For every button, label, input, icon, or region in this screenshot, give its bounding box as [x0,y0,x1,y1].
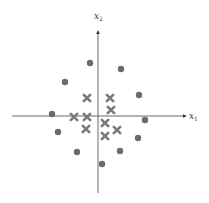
scatter-diagram: x1 x2 [0,0,209,203]
x-axis: x1 [12,111,198,122]
circle-point [142,117,148,123]
cross-point [71,114,77,120]
x-axis-label: x1 [189,111,198,122]
cross-point [107,95,113,101]
circle-point [87,60,93,66]
circle-point [118,66,124,72]
y-axis-label: x2 [94,11,103,22]
cross-point [102,120,108,126]
circle-point [74,149,80,155]
caption [40,194,209,203]
cross-point [84,114,90,120]
circle-point [136,92,142,98]
cross-point [114,127,120,133]
circle-class-points [49,60,148,167]
circle-point [135,135,141,141]
circle-point [117,148,123,154]
cross-point [83,126,89,132]
cross-class-points [71,95,120,139]
circle-point [55,129,61,135]
circle-point [62,79,68,85]
cross-point [108,107,114,113]
circle-point [49,111,55,117]
circle-point [99,161,105,167]
cross-point [102,133,108,139]
cross-point [84,95,90,101]
